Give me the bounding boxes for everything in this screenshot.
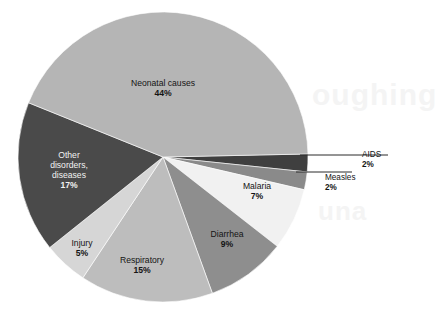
slice-label-diarrhea-name: Diarrhea — [194, 229, 260, 239]
slice-label-malaria-value: 7% — [226, 191, 288, 201]
slice-label-other-disorders-name-2: disorders, — [26, 160, 112, 170]
slice-label-respiratory-name: Respiratory — [104, 255, 180, 265]
slice-label-neonatal: Neonatal causes 44% — [108, 78, 218, 98]
slice-label-diarrhea-value: 9% — [194, 239, 260, 249]
slice-label-other-disorders: Other disorders, diseases 17% — [26, 150, 112, 191]
slice-label-neonatal-value: 44% — [108, 88, 218, 98]
slice-label-injury: Injury 5% — [57, 238, 107, 258]
slice-label-respiratory: Respiratory 15% — [104, 255, 180, 275]
slice-label-other-disorders-name-3: diseases — [26, 170, 112, 180]
callout-label-aids-value: 2% — [362, 160, 381, 170]
slice-label-malaria-name: Malaria — [226, 181, 288, 191]
callout-label-measles: Measles 2% — [325, 173, 356, 193]
slice-label-injury-value: 5% — [57, 248, 107, 258]
callout-label-measles-name: Measles — [325, 173, 356, 183]
slice-label-diarrhea: Diarrhea 9% — [194, 229, 260, 249]
slice-label-neonatal-name: Neonatal causes — [108, 78, 218, 88]
slice-label-other-disorders-value: 17% — [26, 180, 112, 190]
slice-label-injury-name: Injury — [57, 238, 107, 248]
slice-label-respiratory-value: 15% — [104, 265, 180, 275]
slice-label-other-disorders-name-1: Other — [26, 150, 112, 160]
callout-label-aids-name: AIDS — [362, 150, 381, 160]
callout-label-aids: AIDS 2% — [362, 150, 381, 170]
slice-label-malaria: Malaria 7% — [226, 181, 288, 201]
callout-label-measles-value: 2% — [325, 183, 356, 193]
